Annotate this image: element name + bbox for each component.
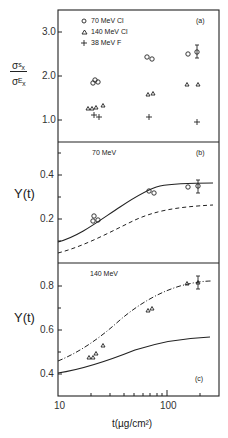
panel-b-circles — [91, 180, 200, 223]
panel-c-tag: (c) — [195, 375, 203, 382]
panel-a-ytick: 1.0 — [42, 114, 56, 125]
panel-b-tag: (b) — [196, 149, 205, 156]
panel-a-plus — [91, 112, 200, 125]
panel-b-dashed-curve — [58, 205, 213, 253]
panel-c-ytick: 0.6 — [40, 324, 54, 335]
panel-a-ylabel-denominator: σᴱₓ — [10, 76, 28, 87]
figure — [0, 0, 228, 438]
panel-b-yticks — [58, 153, 62, 241]
panel-b-solid-fit — [58, 183, 213, 242]
panel-c-triangles — [87, 276, 200, 359]
panel-c-ylabel: Y(t) — [14, 310, 35, 325]
panel-a-yticks — [58, 32, 62, 120]
panel-c-title: 140 MeV — [90, 270, 118, 277]
legend-label-38mev: 38 MeV F — [91, 39, 121, 46]
panel-b-ytick: 0.2 — [40, 213, 54, 224]
panel-b-ylabel: Y(t) — [14, 186, 35, 201]
panel-a-triangles — [86, 83, 200, 111]
legend-label-140mev: 140 MeV Cl — [91, 28, 128, 35]
panel-b-ytick: 0.4 — [40, 169, 54, 180]
legend-markers — [81, 19, 87, 46]
panel-a-circles — [91, 45, 199, 85]
panel-a-ytick: 3.0 — [42, 26, 56, 37]
panel-c-solid-curve — [58, 337, 210, 373]
x-tick-10: 10 — [54, 400, 65, 411]
x-axis-ticks — [91, 390, 200, 396]
panel-c-ytick: 0.4 — [40, 368, 54, 379]
panel-a-tag: (a) — [196, 17, 205, 24]
legend-label-70mev: 70 MeV Cl — [91, 17, 124, 24]
panel-a-ytick: 2.0 — [42, 70, 56, 81]
panel-c-dashdot-fit — [58, 281, 212, 361]
x-axis-label: t(µg/cm²) — [112, 418, 152, 429]
panel-a-ylabel-numerator: σˢₓ — [10, 60, 27, 72]
panel-b-title: 70 MeV — [92, 149, 116, 156]
panel-c-ytick: 0.8 — [40, 280, 54, 291]
x-tick-100: 100 — [160, 400, 177, 411]
